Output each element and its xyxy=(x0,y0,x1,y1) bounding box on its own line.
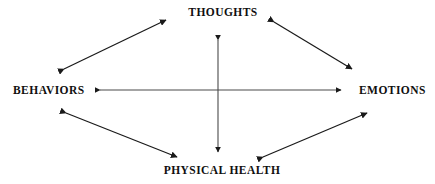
node-label-physical-health: PHYSICAL HEALTH xyxy=(164,165,281,177)
node-label-thoughts: THOUGHTS xyxy=(188,7,257,19)
connector-behaviors-thoughts xyxy=(64,20,166,69)
connector-behaviors-physical-health xyxy=(66,113,177,157)
connector-thoughts-emotions xyxy=(274,22,352,69)
node-label-emotions: EMOTIONS xyxy=(359,85,426,97)
node-label-behaviors: BEHAVIORS xyxy=(13,85,85,97)
connector-physical-health-emotions xyxy=(263,113,367,157)
cbt-interconnection-diagram: THOUGHTS BEHAVIORS EMOTIONS PHYSICAL HEA… xyxy=(0,0,435,184)
